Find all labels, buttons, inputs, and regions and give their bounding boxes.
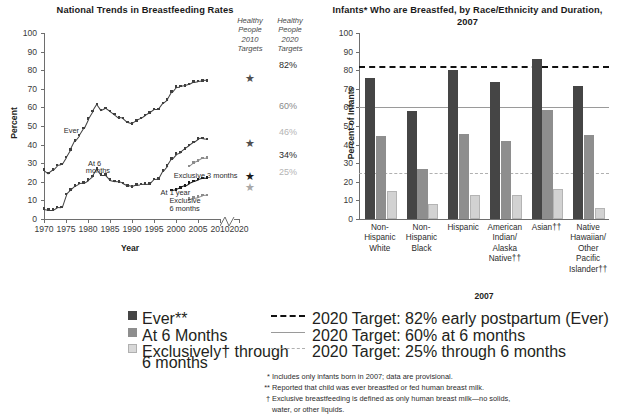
line-chart-data-point — [166, 98, 169, 101]
category-label-line: Pacific — [561, 254, 615, 264]
line-chart-x-tick — [44, 219, 45, 223]
line-chart-data-point — [148, 111, 151, 114]
line-chart-y-tick-label: 50 — [4, 121, 37, 131]
bar-chart-y-tick — [356, 52, 360, 53]
bar-chart-y-tick-label: 10 — [329, 195, 353, 205]
line-chart-data-point — [144, 182, 147, 185]
line-chart-data-point — [175, 152, 178, 155]
line-chart-data-point — [91, 110, 94, 113]
category-label-line: Native†† — [478, 254, 532, 264]
line-chart-data-point — [188, 165, 191, 168]
bar-chart-y-tick — [356, 89, 360, 90]
bar-chart-x-axis-label: 2007 — [454, 291, 514, 301]
line-chart-y-tick — [41, 52, 45, 53]
legend-target-line-sample — [271, 348, 305, 349]
line-chart-data-point — [144, 114, 147, 117]
footnote-text: water, or other liquids. — [272, 405, 344, 415]
bar-chart-y-tick — [356, 126, 360, 127]
bar-ever — [365, 78, 375, 219]
line-chart-data-point — [157, 108, 160, 111]
line-chart-data-point — [65, 156, 68, 159]
bar-six — [459, 134, 469, 219]
line-chart-data-point — [201, 79, 204, 82]
hp2010-header-line1: Healthy — [232, 16, 268, 25]
bar-chart-y-tick-label: 70 — [329, 84, 353, 94]
hp2010-header: Healthy People 2010 Targets — [232, 16, 268, 54]
bar-chart-y-tick-label: 90 — [329, 47, 353, 57]
legend-label-ever: Ever** — [142, 310, 187, 328]
line-chart-data-point — [69, 188, 72, 191]
bar-chart-x-axis — [359, 219, 609, 220]
line-chart-data-point — [113, 113, 116, 116]
line-chart-data-point — [60, 206, 63, 209]
line-chart-y-tick — [41, 163, 45, 164]
line-chart-y-tick — [41, 89, 45, 90]
line-chart-data-point — [201, 157, 204, 160]
line-chart-data-point — [206, 138, 209, 141]
bar-chart-category-label: NativeHawaiian/OtherPacificIslander†† — [561, 223, 615, 275]
line-chart-data-point — [69, 148, 72, 151]
hp2010-target-star-icon: ★ — [243, 73, 257, 84]
line-chart-y-tick-label: 40 — [4, 140, 37, 150]
footnote-text: Exclusive breastfeeding is defined as on… — [272, 394, 510, 404]
line-chart-data-point — [188, 181, 191, 184]
line-chart-data-point — [153, 178, 156, 181]
line-chart-data-point — [82, 181, 85, 184]
bar-ever — [448, 70, 458, 219]
footnote-marker: * — [256, 372, 270, 381]
hp2010-target-star-icon: ★ — [243, 182, 257, 193]
bar-chart-y-tick-label: 100 — [329, 28, 353, 38]
line-chart-x-tick — [132, 219, 133, 223]
bar-six — [376, 136, 386, 219]
hp2020-target-percent-label: 82% — [270, 60, 306, 70]
line-chart-y-tick — [41, 70, 45, 71]
legend-label-exc-line2: 6 months — [142, 354, 208, 372]
legend-swatch-exc — [128, 344, 137, 353]
x-axis-break-icon — [220, 212, 236, 221]
line-chart-data-point — [109, 178, 112, 181]
hp2020-header-line2: People — [272, 25, 308, 34]
line-chart-data-point — [201, 137, 204, 140]
hp2020-header-line1: Healthy — [272, 16, 308, 25]
line-chart-title: National Trends in Breastfeeding Rates — [20, 4, 270, 16]
footnote-text: Includes only infants born in 2007; data… — [272, 372, 453, 382]
line-chart-series-annotation: months — [86, 167, 110, 176]
line-chart-y-tick — [41, 200, 45, 201]
line-chart-y-tick-label: 90 — [4, 47, 37, 57]
bar-chart-y-tick — [356, 163, 360, 164]
hp2010-header-line3: 2010 — [232, 35, 268, 44]
line-chart-data-point — [52, 168, 55, 171]
line-chart-y-tick — [41, 182, 45, 183]
line-chart-data-point — [184, 84, 187, 87]
line-chart-x-tick — [239, 219, 240, 223]
line-chart-data-point — [65, 193, 68, 196]
bar-chart-y-tick-label: 50 — [329, 121, 353, 131]
line-chart-data-point — [126, 184, 129, 187]
hp2010-header-line2: People — [232, 25, 268, 34]
line-chart-data-point — [118, 180, 121, 183]
line-chart-data-point — [78, 182, 81, 185]
bar-chart-y-tick — [356, 182, 360, 183]
line-chart-data-point — [206, 79, 209, 82]
bar-exc — [553, 189, 563, 219]
line-chart-data-point — [135, 183, 138, 186]
hp2020-target-percent-label: 25% — [270, 167, 306, 177]
line-chart-data-point — [162, 169, 165, 172]
line-chart-series-annotation: Ever — [64, 127, 79, 136]
bar-six — [417, 169, 427, 219]
line-chart-data-point — [192, 141, 195, 144]
bar-chart-y-tick-label: 80 — [329, 65, 353, 75]
bar-chart-y-tick-label: 60 — [329, 102, 353, 112]
hp2020-target-percent-label: 34% — [270, 150, 306, 160]
bar-chart-title: Infants* Who are Breastfed, by Race/Ethn… — [325, 4, 610, 28]
line-chart-y-tick-label: 70 — [4, 84, 37, 94]
line-chart-data-point — [179, 85, 182, 88]
bar-ever — [490, 82, 500, 219]
line-chart-data-point — [140, 117, 143, 120]
line-chart-data-point — [87, 117, 90, 120]
line-chart-x-tick — [110, 219, 111, 223]
line-chart-y-tick — [41, 145, 45, 146]
line-chart-y-tick-label: 10 — [4, 195, 37, 205]
line-chart-x-tick-label: 2020 — [224, 224, 254, 234]
category-label-line: Indian/ — [478, 233, 532, 243]
